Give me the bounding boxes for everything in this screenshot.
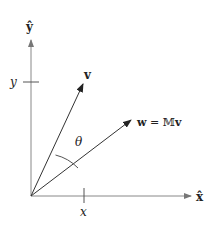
y-axis-label: ŷ <box>25 20 34 34</box>
y-tick-label: y <box>9 75 17 89</box>
matrix-M-symbol: 𝕄 <box>163 116 175 129</box>
angle-theta-label: θ <box>75 135 83 149</box>
vector-w-label: w = 𝕄v <box>136 116 182 129</box>
equals-sign: = <box>146 116 162 129</box>
vector-w-arrow <box>31 120 131 196</box>
angle-arc <box>56 155 79 168</box>
v-symbol: v <box>174 116 182 129</box>
vector-v-label: v <box>83 68 92 82</box>
x-tick-label: x <box>80 205 87 219</box>
vector-transformation-diagram: ŷ x̂ y x v w = 𝕄v θ <box>0 0 211 225</box>
w-symbol: w <box>136 116 147 129</box>
x-axis-label: x̂ <box>196 190 204 204</box>
